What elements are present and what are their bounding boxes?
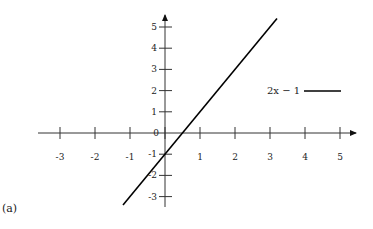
legend-label: 2x − 1 — [267, 85, 300, 96]
x-tick-label: 2 — [232, 152, 238, 162]
y-tick-label: 4 — [151, 43, 157, 53]
x-ticks: -3-2-1012345 — [56, 127, 344, 162]
y-tick-label: 5 — [151, 22, 157, 32]
series-line — [123, 19, 277, 206]
y-ticks: -3-2-112345 — [148, 22, 172, 202]
axes — [38, 15, 356, 207]
panel-label: (a) — [2, 202, 17, 215]
y-tick-label: 3 — [151, 64, 157, 74]
y-tick-label: 1 — [151, 107, 157, 117]
legend: 2x − 1 — [267, 85, 341, 96]
x-tick-label: -3 — [56, 152, 65, 162]
y-tick-label: 2 — [151, 86, 157, 96]
x-tick-label: -2 — [91, 152, 100, 162]
x-tick-label: 1 — [197, 152, 203, 162]
function-plot: -3-2-1012345 -3-2-112345 2x − 1 — [0, 0, 373, 229]
y-tick-label: -1 — [148, 149, 157, 159]
x-tick-label: 3 — [267, 152, 273, 162]
x-tick-label: 4 — [302, 152, 308, 162]
x-tick-label: 5 — [337, 152, 343, 162]
x-tick-label: -1 — [126, 152, 135, 162]
series-lines — [123, 19, 277, 206]
x-tick-label: 0 — [153, 128, 159, 138]
y-tick-label: -3 — [148, 192, 157, 202]
